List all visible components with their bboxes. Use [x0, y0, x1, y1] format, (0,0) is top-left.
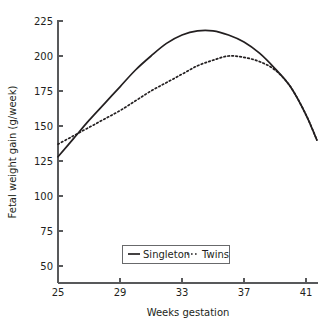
- series-line-singleton: [58, 30, 317, 157]
- x-tick-marks: [58, 278, 306, 283]
- y-tick-label-150: 150: [34, 121, 53, 132]
- y-tick-label-100: 100: [34, 191, 53, 202]
- x-tick-label-41: 41: [300, 287, 313, 298]
- x-tick-label-37: 37: [238, 287, 251, 298]
- x-tick-label-25: 25: [52, 287, 65, 298]
- x-axis-title: Weeks gestation: [147, 307, 230, 318]
- x-tick-label-33: 33: [176, 287, 189, 298]
- y-tick-label-225: 225: [34, 16, 53, 27]
- chart-container: 225 200 175 150 125 100 75 50 25 29 33 3…: [0, 0, 324, 324]
- axes-group: [58, 20, 318, 283]
- x-tick-label-29: 29: [114, 287, 127, 298]
- legend-label-twins: Twins: [201, 249, 229, 260]
- x-tick-labels: 25 29 33 37 41: [52, 287, 313, 298]
- y-axis-title: Fetal weight gain (g/week): [7, 85, 18, 218]
- series-line-twins: [58, 56, 317, 144]
- y-tick-label-175: 175: [34, 86, 53, 97]
- y-tick-label-75: 75: [40, 226, 53, 237]
- series-group: [58, 30, 317, 157]
- chart-legend: Singleton Twins: [122, 245, 229, 263]
- y-tick-label-50: 50: [40, 261, 53, 272]
- y-tick-label-200: 200: [34, 51, 53, 62]
- legend-label-singleton: Singleton: [143, 249, 190, 260]
- y-tick-label-125: 125: [34, 156, 53, 167]
- fetal-weight-gain-line-chart: 225 200 175 150 125 100 75 50 25 29 33 3…: [0, 0, 324, 324]
- y-tick-labels: 225 200 175 150 125 100 75 50: [34, 16, 53, 272]
